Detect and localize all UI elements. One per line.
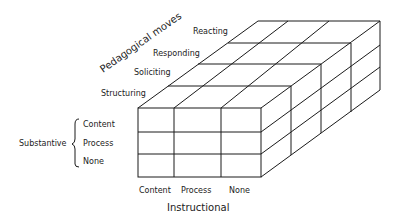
brace-icon (72, 119, 79, 167)
depth-axis-title: Pedagogical moves (98, 10, 183, 74)
front-face (138, 108, 261, 177)
vertical-axis-title: Substantive (19, 139, 67, 148)
depth-label-structuring: Structuring (101, 89, 146, 98)
horizontal-axis-title: Instructional (167, 202, 229, 213)
cube-grid (138, 21, 380, 177)
vertical-label-none: None (83, 157, 104, 166)
depth-label-responding: Responding (153, 49, 200, 58)
horizontal-label-process: Process (181, 186, 211, 195)
horizontal-label-none: None (229, 186, 250, 195)
vertical-label-process: Process (83, 139, 113, 148)
vertical-label-content: Content (83, 120, 115, 129)
cube-diagram: Pedagogical moves Structuring Soliciting… (0, 0, 400, 223)
horizontal-label-content: Content (139, 186, 171, 195)
depth-label-soliciting: Soliciting (134, 68, 171, 77)
depth-label-reacting: Reacting (193, 27, 228, 36)
